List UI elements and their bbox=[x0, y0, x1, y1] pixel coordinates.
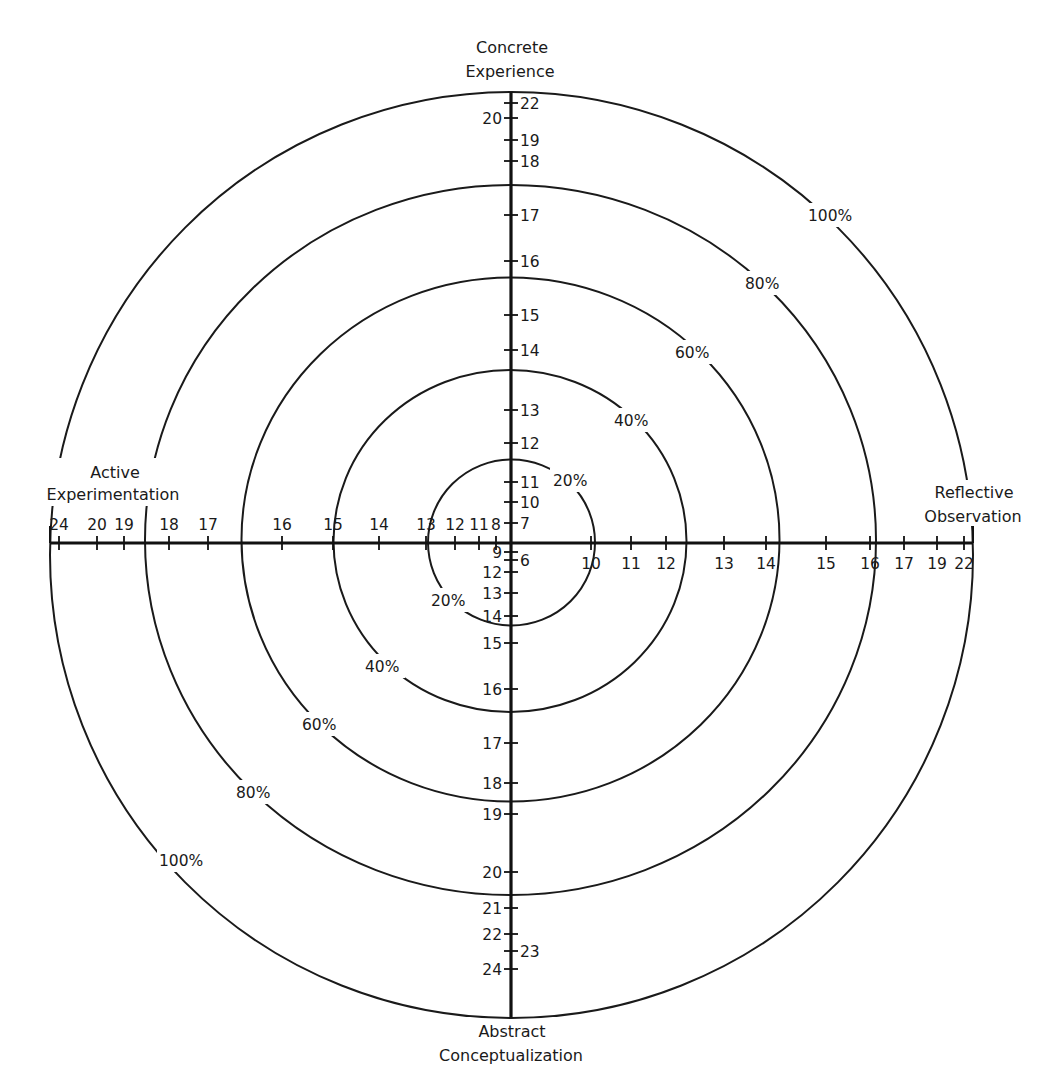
pct-label-60-upper: 60% bbox=[675, 344, 709, 362]
tick-label: 12 bbox=[482, 564, 502, 582]
pct-label-40-upper: 40% bbox=[614, 412, 648, 430]
tick-label: 17 bbox=[482, 735, 502, 753]
tick-label: 16 bbox=[860, 555, 880, 573]
tick-label: 17 bbox=[520, 207, 540, 225]
tick-label: 22 bbox=[954, 555, 974, 573]
tick-label: 15 bbox=[520, 307, 540, 325]
pole-top-line2: Experience bbox=[465, 62, 554, 81]
tick-label: 18 bbox=[159, 516, 179, 534]
tick-label: 16 bbox=[272, 516, 292, 534]
tick-label: 22 bbox=[482, 926, 502, 944]
tick-label: 20 bbox=[87, 516, 107, 534]
tick-label: 15 bbox=[323, 516, 343, 534]
pct-label-80-upper: 80% bbox=[745, 275, 779, 293]
pct-label-20-upper: 20% bbox=[553, 472, 587, 490]
tick-label: 11 bbox=[469, 516, 489, 534]
percent-labels: 100% 80% 60% 40% 20% 20% 40% 60% 80% 100… bbox=[159, 207, 852, 870]
pct-label-100-lower: 100% bbox=[159, 852, 203, 870]
learning-style-grid: 2220191817161514131211107 96121314151617… bbox=[0, 0, 1062, 1066]
tick-label: 16 bbox=[520, 253, 540, 271]
tick-label: 21 bbox=[482, 900, 502, 918]
tick-label: 18 bbox=[482, 775, 502, 793]
tick-label: 14 bbox=[756, 555, 776, 573]
tick-label: 7 bbox=[520, 515, 530, 533]
tick-label: 12 bbox=[445, 516, 465, 534]
tick-label: 9 bbox=[492, 544, 502, 562]
tick-label: 19 bbox=[520, 132, 540, 150]
tick-label: 11 bbox=[520, 474, 540, 492]
tick-label: 10 bbox=[581, 555, 601, 573]
pole-left-line2: Experimentation bbox=[47, 485, 180, 504]
pole-bottom-line2: Conceptualization bbox=[439, 1046, 583, 1065]
pole-bottom-line1: Abstract bbox=[478, 1022, 545, 1041]
tick-label: 6 bbox=[520, 552, 530, 570]
tick-label: 24 bbox=[482, 961, 502, 979]
tick-label: 14 bbox=[520, 342, 540, 360]
ticks-active-experimentation: 24201918171615141312118 bbox=[49, 516, 501, 550]
tick-label: 17 bbox=[894, 555, 914, 573]
tick-label: 12 bbox=[520, 435, 540, 453]
tick-label: 12 bbox=[656, 555, 676, 573]
pole-left-line1: Active bbox=[90, 463, 140, 482]
pct-label-60-lower: 60% bbox=[302, 716, 336, 734]
pole-right-line2: Observation bbox=[924, 507, 1021, 526]
pct-label-20-lower: 20% bbox=[431, 592, 465, 610]
tick-label: 13 bbox=[482, 585, 502, 603]
tick-label: 22 bbox=[520, 95, 540, 113]
tick-label: 19 bbox=[482, 806, 502, 824]
pole-right-line1: Reflective bbox=[935, 483, 1014, 502]
tick-label: 8 bbox=[491, 516, 501, 534]
tick-label: 11 bbox=[621, 555, 641, 573]
pct-label-100-upper: 100% bbox=[808, 207, 852, 225]
tick-label: 23 bbox=[520, 943, 540, 961]
tick-label: 20 bbox=[482, 110, 502, 128]
tick-label: 10 bbox=[520, 494, 540, 512]
tick-label: 13 bbox=[416, 516, 436, 534]
tick-label: 20 bbox=[482, 864, 502, 882]
tick-label: 15 bbox=[816, 555, 836, 573]
tick-label: 16 bbox=[482, 681, 502, 699]
tick-label: 18 bbox=[520, 153, 540, 171]
pole-top-line1: Concrete bbox=[476, 38, 548, 57]
tick-label: 19 bbox=[927, 555, 947, 573]
label-masks bbox=[42, 203, 1030, 872]
pct-label-40-lower: 40% bbox=[365, 658, 399, 676]
tick-label: 24 bbox=[49, 516, 69, 534]
tick-label: 15 bbox=[482, 635, 502, 653]
tick-label: 14 bbox=[482, 608, 502, 626]
tick-label: 13 bbox=[520, 402, 540, 420]
tick-label: 19 bbox=[114, 516, 134, 534]
pct-label-80-lower: 80% bbox=[236, 784, 270, 802]
tick-label: 17 bbox=[198, 516, 218, 534]
tick-label: 13 bbox=[714, 555, 734, 573]
tick-label: 14 bbox=[369, 516, 389, 534]
